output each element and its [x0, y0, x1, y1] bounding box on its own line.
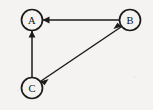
diagram-canvas: A B C	[0, 0, 153, 110]
node-a-label: A	[28, 15, 36, 26]
node-b-label: B	[126, 15, 133, 26]
edge-c-and-b-line	[40, 27, 121, 82]
node-b[interactable]: B	[120, 10, 141, 31]
node-a[interactable]: A	[22, 10, 43, 31]
node-c[interactable]: C	[22, 78, 43, 99]
edge-c-and-b[interactable]	[40, 23, 121, 86]
directed-graph-svg: A B C	[0, 0, 153, 110]
arrowhead-into-a-from-c	[29, 31, 36, 38]
node-c-label: C	[28, 83, 35, 94]
edge-group	[29, 17, 122, 86]
edge-c-to-a[interactable]	[29, 31, 36, 78]
edge-b-to-a[interactable]	[43, 17, 120, 24]
arrowhead-into-a-from-b	[43, 17, 50, 24]
